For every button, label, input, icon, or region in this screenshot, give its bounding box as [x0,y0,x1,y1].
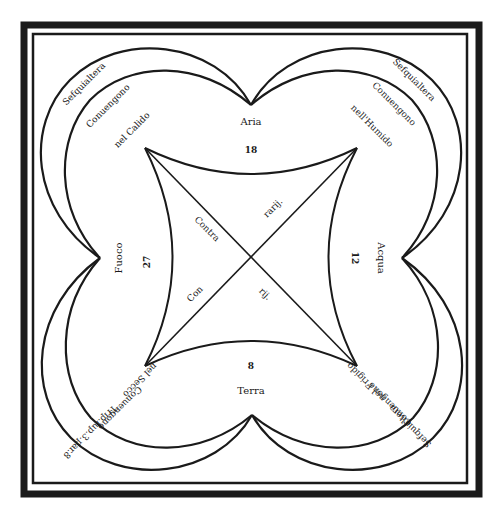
element-right-number: 12 [350,252,360,265]
center-label-con: Con [185,284,205,304]
element-top-name: Aria [239,116,261,127]
center-label-contra: Contra [192,214,222,244]
inner-star [145,148,357,366]
center-label-rarij: rarij. [261,196,284,219]
element-right-name: Acqua [376,241,387,274]
lobe-top-right-quality: nell'Humido [349,103,395,149]
lobe-top-right-outer [251,48,461,258]
center-label-rij: rij. [257,286,273,302]
element-left-number: 27 [142,256,152,269]
element-bottom-name: Terra [237,385,264,396]
lobe-top-left-outer [41,48,251,258]
element-left-name: Fuoco [113,242,124,273]
element-bottom-number: 8 [248,361,254,371]
lobe-top-left-relation: Conuengono [84,82,132,130]
lobe-top-right-relation: Conuengono [370,80,418,128]
lobe-top-right-inner [251,71,437,258]
lobe-top-left-inner [65,71,251,258]
diagram-canvas: Aria 18 Terra 8 Fuoco 27 Acqua 12 Sefqui… [0,0,499,514]
lobe-bottom-right-quality: nel Frigido [345,361,388,404]
element-top-number: 18 [245,145,258,155]
lobe-top-left-quality: nel Calido [112,110,152,150]
